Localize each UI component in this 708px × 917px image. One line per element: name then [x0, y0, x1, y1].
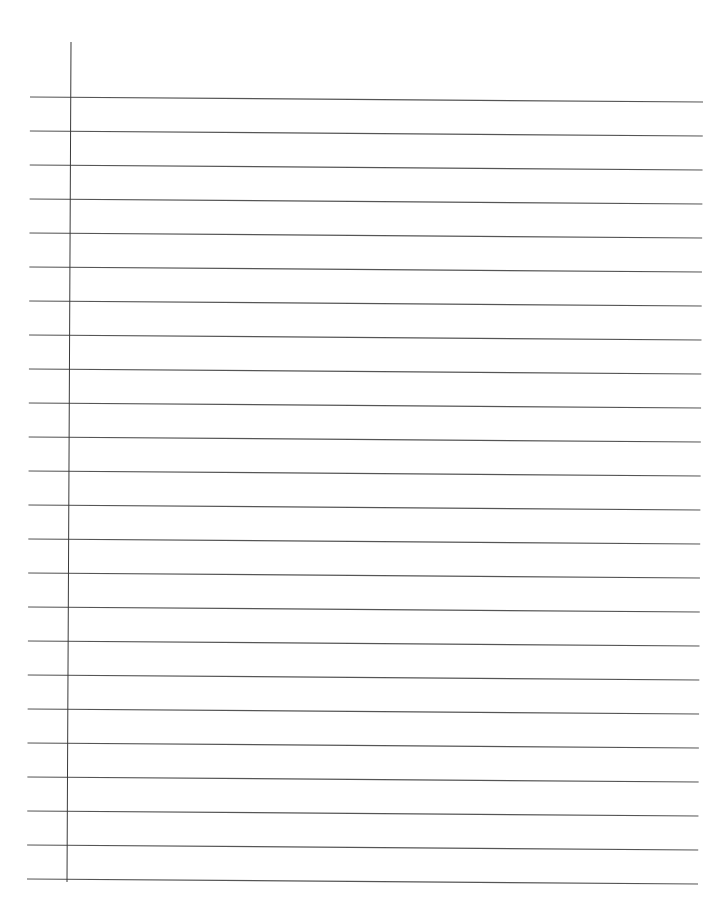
ruled-line — [29, 233, 702, 238]
ruled-line — [30, 131, 703, 136]
ruled-line — [28, 539, 700, 544]
ruled-lines-canvas — [0, 0, 708, 917]
ruled-line — [29, 437, 701, 442]
ruled-line — [28, 607, 700, 612]
ruled-line — [27, 879, 698, 884]
ruled-line — [29, 267, 702, 272]
ruled-line — [29, 301, 701, 306]
ruled-line — [29, 403, 701, 408]
ruled-line — [28, 505, 700, 510]
ruled-line — [29, 335, 701, 340]
ruled-line — [30, 165, 703, 170]
ruled-line — [30, 97, 703, 102]
ruled-line — [27, 811, 698, 816]
ruled-line — [28, 573, 700, 578]
ruled-line — [27, 845, 698, 850]
ruled-line — [30, 199, 703, 204]
margin-line — [67, 42, 71, 882]
ruled-line — [29, 471, 701, 476]
ruled-line — [28, 641, 700, 646]
ruled-line — [28, 675, 700, 680]
horizontal-rules — [27, 97, 703, 884]
ruled-line — [29, 369, 701, 374]
ruled-line — [28, 709, 699, 714]
ruled-line — [27, 777, 698, 782]
ruled-line — [28, 743, 699, 748]
lined-paper-page — [0, 0, 708, 917]
